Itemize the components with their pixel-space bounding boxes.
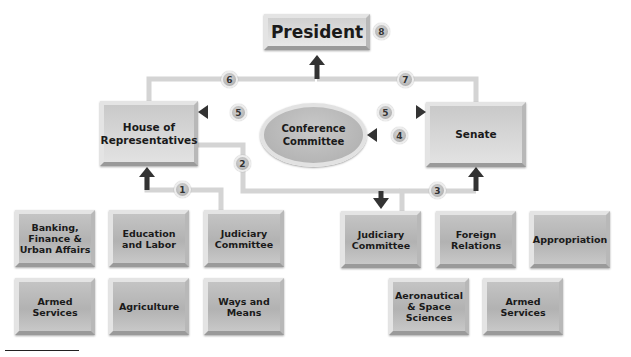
house-committee-judiciary: JudiciaryCommittee <box>204 210 284 267</box>
committee-label: Committee <box>352 240 411 251</box>
committee-label: Education <box>122 228 175 239</box>
step-3-badge: 3 <box>429 182 446 199</box>
conference-label-line1: Conference <box>281 123 345 134</box>
president-box: President <box>264 14 370 50</box>
committee-label: Finance & <box>28 233 81 244</box>
committee-label: Armed <box>37 296 72 307</box>
committee-label: and Labor <box>122 239 176 250</box>
house-label-line2: Representatives <box>101 134 198 146</box>
committee-label: Urban Affairs <box>20 244 91 255</box>
step-2-badge: 2 <box>234 155 251 172</box>
footnote-divider <box>5 350 79 351</box>
house-committee-banking: Banking,Finance &Urban Affairs <box>15 210 95 267</box>
committee-label: Armed <box>505 296 540 307</box>
step-7-badge: 7 <box>397 71 414 88</box>
senate-committee-aeronautical-space: Aeronautical& SpaceSciences <box>389 278 469 335</box>
committee-label: Means <box>227 307 262 318</box>
committee-label: & Space <box>407 301 451 312</box>
step-6-badge: 6 <box>221 71 238 88</box>
senate-box: Senate <box>426 102 526 167</box>
house-committee-agriculture: Agriculture <box>109 278 189 335</box>
committee-label: Services <box>500 307 545 318</box>
conference-label-line2: Committee <box>283 136 345 147</box>
house-of-representatives-box: House ofRepresentatives <box>100 101 198 166</box>
house-label-line1: House of <box>123 121 175 133</box>
legislative-process-diagram: President 8 House ofRepresentatives Conf… <box>0 0 631 357</box>
committee-label: Aeronautical <box>395 290 463 301</box>
committee-label: Committee <box>215 239 274 250</box>
committee-label: Banking, <box>31 222 78 233</box>
committee-label: Sciences <box>406 312 453 323</box>
step-5-left-badge: 5 <box>230 104 247 121</box>
step-1-badge: 1 <box>174 181 191 198</box>
president-label: President <box>271 22 363 42</box>
step-5-right-badge: 5 <box>377 104 394 121</box>
house-committee-education-labor: Educationand Labor <box>109 210 189 267</box>
committee-label: Judiciary <box>221 228 268 239</box>
committee-label: Agriculture <box>119 301 179 312</box>
senate-committee-foreign-relations: ForeignRelations <box>436 211 516 268</box>
senate-committee-appropriation: Appropriation <box>530 211 610 268</box>
house-committee-ways-means: Ways andMeans <box>204 278 284 335</box>
house-committee-armed-services: ArmedServices <box>15 278 95 335</box>
step-8-badge: 8 <box>373 23 390 40</box>
step-4-badge: 4 <box>391 127 408 144</box>
committee-label: Services <box>32 307 77 318</box>
conference-committee-ellipse: ConferenceCommittee <box>260 103 367 167</box>
committee-label: Foreign <box>456 229 497 240</box>
senate-label: Senate <box>455 128 496 141</box>
committee-label: Judiciary <box>358 229 405 240</box>
committee-label: Appropriation <box>533 234 607 245</box>
senate-committee-judiciary: JudiciaryCommittee <box>341 211 421 268</box>
senate-committee-armed-services: ArmedServices <box>483 278 563 335</box>
committee-label: Relations <box>451 240 501 251</box>
committee-label: Ways and <box>218 296 269 307</box>
